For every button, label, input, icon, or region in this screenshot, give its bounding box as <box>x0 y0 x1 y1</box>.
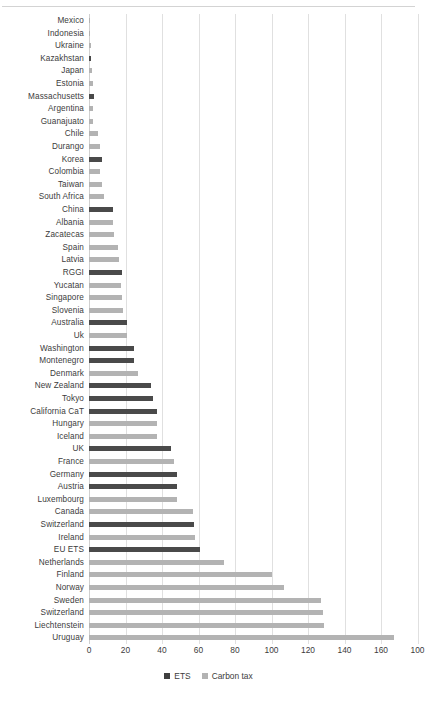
bar-carbon-tax[interactable] <box>89 371 138 376</box>
bar-carbon-tax[interactable] <box>89 68 92 73</box>
bar-carbon-tax[interactable] <box>89 18 90 23</box>
x-tick-label: 80 <box>230 645 239 655</box>
legend-label: Carbon tax <box>212 671 253 681</box>
bar-carbon-tax[interactable] <box>89 509 193 514</box>
gridline <box>418 14 419 644</box>
bar-carbon-tax[interactable] <box>89 434 157 439</box>
bar-carbon-tax[interactable] <box>89 610 323 615</box>
bar-carbon-tax[interactable] <box>89 497 177 502</box>
legend-item-carbon-tax[interactable]: Carbon tax <box>202 671 253 681</box>
bar-carbon-tax[interactable] <box>89 131 98 136</box>
bar-carbon-tax[interactable] <box>89 144 100 149</box>
bar-ets[interactable] <box>89 522 194 527</box>
bar-ets[interactable] <box>89 383 151 388</box>
bar-carbon-tax[interactable] <box>89 459 174 464</box>
legend-swatch-icon <box>164 673 170 679</box>
x-tick-label: 20 <box>121 645 130 655</box>
bar-carbon-tax[interactable] <box>89 182 102 187</box>
bar-carbon-tax[interactable] <box>89 232 114 237</box>
bar-carbon-tax[interactable] <box>89 257 119 262</box>
bar-carbon-tax[interactable] <box>89 43 91 48</box>
bar-carbon-tax[interactable] <box>89 169 100 174</box>
bar-carbon-tax[interactable] <box>89 220 113 225</box>
bar-ets[interactable] <box>89 547 200 552</box>
x-tick-label: 160 <box>374 645 388 655</box>
x-tick-label: 140 <box>338 645 352 655</box>
legend-label: ETS <box>174 671 190 681</box>
plot-area <box>89 14 381 644</box>
x-tick-label: 0 <box>87 645 92 655</box>
category-axis-labels: MexicoIndonesiaUkraineKazakhstanJapanEst… <box>0 14 84 644</box>
bar-carbon-tax[interactable] <box>89 245 118 250</box>
bar-ets[interactable] <box>89 409 157 414</box>
bar-ets[interactable] <box>89 270 122 275</box>
bar-ets[interactable] <box>89 396 153 401</box>
bar-carbon-tax[interactable] <box>89 295 122 300</box>
bar-ets[interactable] <box>89 446 171 451</box>
bar-carbon-tax[interactable] <box>89 585 284 590</box>
bar-carbon-tax[interactable] <box>89 623 324 628</box>
bar-rows <box>89 14 381 644</box>
bar-carbon-tax[interactable] <box>89 535 195 540</box>
bar-row <box>89 631 381 645</box>
legend-swatch-icon <box>202 673 208 679</box>
bar-carbon-tax[interactable] <box>89 106 93 111</box>
x-tick-label: 100 <box>411 645 425 655</box>
x-tick-label: 40 <box>157 645 166 655</box>
bar-carbon-tax[interactable] <box>89 194 104 199</box>
bar-carbon-tax[interactable] <box>89 283 121 288</box>
bar-carbon-tax[interactable] <box>89 635 394 640</box>
bar-ets[interactable] <box>89 94 94 99</box>
bar-ets[interactable] <box>89 157 102 162</box>
bar-carbon-tax[interactable] <box>89 333 127 338</box>
gridline <box>381 14 382 644</box>
bar-carbon-tax[interactable] <box>89 421 157 426</box>
category-label: Uruguay <box>0 631 84 645</box>
x-tick-label: 100 <box>265 645 279 655</box>
bar-ets[interactable] <box>89 346 134 351</box>
bar-ets[interactable] <box>89 484 177 489</box>
bar-carbon-tax[interactable] <box>89 31 90 36</box>
bar-carbon-tax[interactable] <box>89 598 321 603</box>
bar-ets[interactable] <box>89 472 177 477</box>
bar-ets[interactable] <box>89 320 127 325</box>
x-axis-tick-labels: 020406080100120140160100 <box>89 645 419 663</box>
top-divider <box>2 6 415 7</box>
bar-ets[interactable] <box>89 358 134 363</box>
bar-carbon-tax[interactable] <box>89 119 93 124</box>
bar-carbon-tax[interactable] <box>89 572 272 577</box>
bar-carbon-tax[interactable] <box>89 560 224 565</box>
bar-ets[interactable] <box>89 56 91 61</box>
bar-carbon-tax[interactable] <box>89 81 93 86</box>
chart-legend: ETSCarbon tax <box>0 671 417 681</box>
bar-ets[interactable] <box>89 207 113 212</box>
x-tick-label: 60 <box>194 645 203 655</box>
x-tick-label: 120 <box>301 645 315 655</box>
bar-carbon-tax[interactable] <box>89 308 123 313</box>
legend-item-ets[interactable]: ETS <box>164 671 190 681</box>
